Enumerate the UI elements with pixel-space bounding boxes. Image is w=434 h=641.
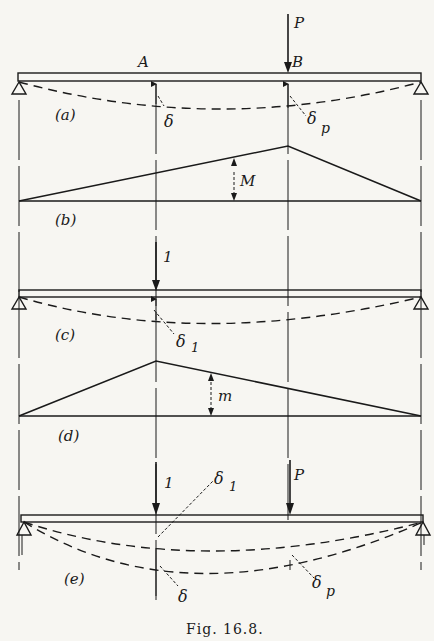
- delta-label-e: δ: [178, 587, 188, 606]
- panel-b-label: (b): [55, 211, 76, 229]
- delta1-subscript-c: 1: [191, 340, 199, 355]
- moment-M-label: M: [239, 172, 256, 190]
- deflection-curve-c: [19, 297, 421, 324]
- support-right-a: [414, 82, 428, 94]
- unit-load-label-e: 1: [164, 474, 174, 492]
- delta-label-a: δ: [164, 112, 174, 131]
- unit-load-label-c: 1: [163, 248, 173, 266]
- beam-deflection-diagram: P A B (a) δ δ p M (b) 1 (c) δ: [0, 0, 434, 641]
- beam-e: [21, 515, 423, 522]
- panel-d-label: (d): [58, 427, 79, 445]
- deflection-curve-total: [24, 522, 423, 574]
- load-P-label: P: [293, 14, 305, 32]
- moment-diagram-M: [19, 146, 421, 201]
- panel-e-label: (e): [64, 570, 85, 588]
- figure-caption: Fig. 16.8.: [186, 621, 264, 637]
- panel-e: 1 P δ 1 (e) δ δ p: [17, 460, 430, 606]
- panel-c: 1 (c) δ 1: [12, 242, 428, 355]
- panel-d: m (d): [19, 361, 421, 445]
- point-A-label: A: [136, 53, 149, 71]
- delta1-label-c: δ: [176, 332, 186, 351]
- deflection-curve-unit: [24, 522, 423, 551]
- delta1-label-e: δ: [214, 469, 224, 488]
- panel-c-label: (c): [55, 326, 75, 344]
- delta-p-subscript-a: p: [321, 120, 330, 136]
- beam-a: [18, 73, 421, 81]
- panel-a-label: (a): [55, 106, 76, 124]
- delta1-subscript-e: 1: [229, 479, 237, 494]
- moment-m-label: m: [218, 387, 232, 405]
- point-B-label: B: [291, 53, 303, 71]
- panel-a: P A B (a) δ δ p: [12, 14, 428, 136]
- delta-p-label-e: δ: [312, 573, 322, 592]
- delta-p-subscript-e: p: [326, 583, 335, 599]
- delta-p-label-a: δ: [307, 109, 317, 128]
- beam-c: [19, 290, 421, 297]
- panel-b: M (b): [19, 146, 421, 229]
- load-P-label-e: P: [293, 466, 305, 484]
- deflection-curve-a: [19, 82, 421, 109]
